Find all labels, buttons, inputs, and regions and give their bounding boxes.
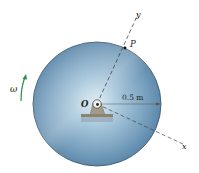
radius-label: 0.5 m [122, 93, 143, 102]
origin-label: O [81, 99, 89, 109]
x-axis-label: x [182, 142, 187, 151]
omega-arrow-icon [21, 77, 25, 101]
pin-center [96, 103, 99, 106]
omega-arrowhead [23, 74, 28, 80]
support-base [81, 114, 113, 117]
y-axis-label: y [135, 10, 141, 19]
point-p-marker [124, 47, 127, 50]
point-p-label: P [129, 39, 136, 49]
omega-label: ω [10, 84, 18, 94]
disk-diagram: ω O P 0.5 m x y [0, 0, 199, 173]
